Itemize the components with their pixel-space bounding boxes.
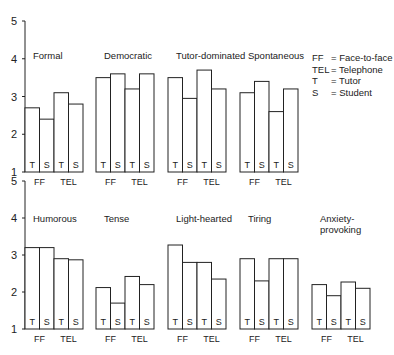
bar: [255, 81, 270, 172]
panel-title: Tutor-dominated: [176, 50, 245, 61]
group-label: FF: [321, 334, 332, 344]
group-label: FF: [105, 334, 116, 344]
bar: [140, 74, 155, 172]
group-label: FF: [34, 334, 45, 344]
bar-label: T: [274, 160, 280, 170]
group-label: TEL: [275, 177, 292, 187]
panel-title: Tiring: [248, 213, 271, 224]
bar-label: S: [259, 317, 265, 327]
legend-abbr: TEL: [312, 64, 329, 75]
group-label: TEL: [275, 334, 292, 344]
legend-abbr: T: [312, 75, 318, 86]
group-label: TEL: [131, 177, 148, 187]
bar: [197, 70, 212, 172]
group-label: TEL: [203, 177, 220, 187]
legend-meaning: = Student: [331, 87, 372, 98]
bar-label: S: [44, 160, 50, 170]
bar-label: T: [130, 160, 136, 170]
group-label: TEL: [203, 334, 220, 344]
bar-label: T: [30, 160, 36, 170]
group-label: FF: [177, 177, 188, 187]
panel-title: Anxiety-: [320, 213, 354, 224]
group-label: TEL: [131, 334, 148, 344]
y-tick-label: 1: [11, 323, 17, 335]
bar-label: S: [115, 317, 121, 327]
y-tick-label: 3: [11, 249, 17, 261]
bar-label: S: [187, 317, 193, 327]
bar-label: S: [216, 317, 222, 327]
bar-label: T: [30, 317, 36, 327]
bar-label: S: [331, 317, 337, 327]
bar-label: T: [59, 160, 65, 170]
bar-label: T: [245, 160, 251, 170]
panel-title: Light-hearted: [176, 213, 232, 224]
y-tick-label: 5: [11, 15, 17, 27]
bar-label: T: [101, 160, 107, 170]
legend-abbr: S: [312, 87, 318, 98]
panel-title: Humorous: [33, 213, 77, 224]
bar-label: S: [216, 160, 222, 170]
legend-meaning: = Face-to-face: [331, 52, 393, 63]
bar-label: T: [202, 160, 208, 170]
bar: [111, 74, 126, 172]
chart: 1234512345FormalTSTSFFTELDemocraticTSTSF…: [0, 0, 394, 355]
bar-label: T: [173, 160, 179, 170]
group-label: TEL: [347, 334, 364, 344]
bar-label: T: [173, 317, 179, 327]
group-label: FF: [105, 177, 116, 187]
bar-label: S: [115, 160, 121, 170]
legend-meaning: = Telephone: [331, 64, 383, 75]
bar-label: S: [288, 317, 294, 327]
panel-title: Formal: [33, 50, 63, 61]
panel-title: provoking: [320, 224, 361, 235]
bar-label: T: [274, 317, 280, 327]
group-label: TEL: [60, 177, 77, 187]
y-tick-label: 2: [11, 128, 17, 140]
bar-label: T: [317, 317, 323, 327]
bar-label: S: [44, 317, 50, 327]
y-tick-label: 3: [11, 91, 17, 103]
bar-label: T: [59, 317, 65, 327]
bar-label: T: [101, 317, 107, 327]
bar-label: S: [360, 317, 366, 327]
bar-label: S: [288, 160, 294, 170]
y-tick-label: 2: [11, 286, 17, 298]
bar-label: S: [187, 160, 193, 170]
legend-abbr: FF: [312, 52, 324, 63]
group-label: FF: [34, 177, 45, 187]
bar-label: T: [245, 317, 251, 327]
bar-label: S: [144, 160, 150, 170]
panel-title: Tense: [104, 213, 129, 224]
bar-label: S: [73, 317, 79, 327]
legend-meaning: = Tutor: [331, 75, 361, 86]
panel-title: Democratic: [104, 50, 152, 61]
y-tick-label: 4: [11, 212, 17, 224]
bar: [168, 78, 183, 172]
group-label: FF: [177, 334, 188, 344]
bar-label: T: [202, 317, 208, 327]
group-label: FF: [249, 177, 260, 187]
bar-label: S: [259, 160, 265, 170]
bar-label: S: [73, 160, 79, 170]
group-label: TEL: [60, 334, 77, 344]
bar-label: T: [130, 317, 136, 327]
bar-label: T: [346, 317, 352, 327]
y-tick-label: 4: [11, 53, 17, 65]
panel-title: Spontaneous: [248, 50, 304, 61]
y-tick-label: 5: [11, 175, 17, 187]
bar: [96, 78, 111, 172]
group-label: FF: [249, 334, 260, 344]
bar-label: S: [144, 317, 150, 327]
